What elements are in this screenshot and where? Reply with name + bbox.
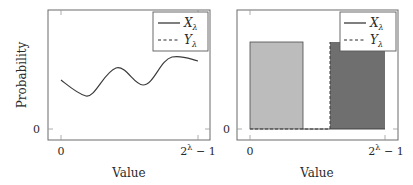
left-plot: Xλ Yλ 0 0 2λ − 1 Value Probability (15, 10, 216, 180)
left-legend: Xλ Yλ (153, 12, 208, 51)
left-yaxis-label: Probability (15, 41, 29, 108)
right-plot: Xλ Yλ 0 0 2λ − 1 Value (223, 10, 404, 180)
right-bar-y-lambda (330, 42, 385, 129)
right-xtick-label-0: 0 (247, 145, 254, 158)
left-xtick-label-0: 0 (58, 145, 65, 158)
figure: Xλ Yλ 0 0 2λ − 1 Value Probability Xλ (0, 0, 413, 185)
left-series-x-lambda-curve (61, 56, 198, 96)
right-bar-x-lambda (250, 42, 303, 129)
right-xtick-label-max: 2λ − 1 (368, 143, 403, 158)
left-xaxis-label: Value (111, 166, 145, 180)
right-xaxis-label: Value (299, 166, 333, 180)
right-legend: Xλ Yλ (340, 12, 396, 51)
left-xtick-label-max: 2λ − 1 (180, 143, 215, 158)
right-ytick-label-0: 0 (223, 123, 230, 136)
left-ytick-label-0: 0 (33, 123, 40, 136)
